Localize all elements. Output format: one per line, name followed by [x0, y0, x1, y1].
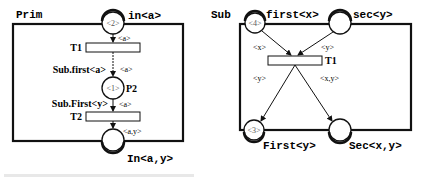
- prim-transition-t2-label: T2: [70, 111, 82, 122]
- sub-arc-first-t1: [262, 31, 291, 55]
- prim-net: Prim <2> in<a> <a> T1 Sub.first<a> <a> <…: [13, 9, 183, 165]
- prim-transition-t2[interactable]: [86, 112, 140, 121]
- prim-transition-t1[interactable]: [86, 43, 140, 52]
- prim-place-p2-label: P2: [126, 83, 137, 94]
- prim-input-place-label: in<a>: [128, 10, 161, 22]
- truncated-caption: [4, 174, 194, 177]
- prim-arc-p2-t2-label: <a>: [119, 100, 132, 109]
- sub-transition-t1[interactable]: [268, 56, 322, 65]
- sub-net: Sub <4> first<x> sec<y> <x> <y> T1 <y> <…: [211, 9, 411, 152]
- prim-arc-in-t1-label: <a>: [118, 34, 131, 43]
- sub-title: Sub: [211, 9, 231, 21]
- prim-output-place[interactable]: [102, 129, 124, 151]
- sub-place-first-label: first<x>: [266, 9, 319, 21]
- sub-place-sec-label: sec<y>: [353, 9, 393, 21]
- petri-net-diagram: Prim <2> in<a> <a> T1 Sub.first<a> <a> <…: [0, 0, 421, 179]
- prim-title: Prim: [16, 9, 43, 21]
- sub-arc-t1-Sec-label: <x,y>: [320, 74, 340, 83]
- sub-place-Sec[interactable]: [329, 119, 351, 141]
- prim-arc-t2-out-label: <a,y>: [123, 127, 142, 136]
- prim-transition-t1-label: T1: [70, 42, 82, 53]
- sub-place-First-label: First<y>: [263, 140, 316, 152]
- prim-place-p2-tokens: <1>: [106, 84, 120, 93]
- sub-place-Sec-label: Sec<x,y>: [349, 140, 402, 152]
- prim-t1-call-label: Sub.first<a>: [53, 64, 107, 75]
- prim-t2-call-label: Sub.First<y>: [52, 98, 108, 109]
- sub-arc-first-t1-label: <x>: [253, 43, 267, 52]
- sub-place-First-tokens: <3>: [247, 126, 261, 135]
- prim-input-place-tokens: <2>: [106, 19, 120, 28]
- sub-place-sec[interactable]: [329, 12, 351, 34]
- sub-arc-t1-First: [261, 65, 295, 121]
- sub-transition-t1-label: T1: [325, 55, 337, 66]
- sub-arc-t1-First-label: <y>: [253, 74, 267, 83]
- sub-arc-sec-t1-label: <y>: [321, 43, 335, 52]
- sub-place-first-tokens: <4>: [248, 19, 262, 28]
- prim-boundary: [13, 24, 183, 141]
- prim-arc-t1-p2-label: <a>: [120, 65, 133, 74]
- prim-output-place-label: In<a,y>: [127, 153, 174, 165]
